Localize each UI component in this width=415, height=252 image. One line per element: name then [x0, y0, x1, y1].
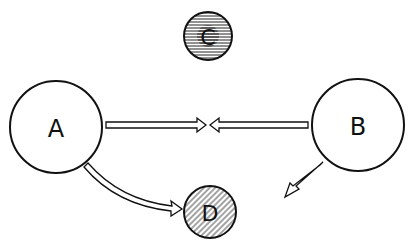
node-d: D: [184, 186, 236, 238]
arrow-b-to-d: [285, 162, 323, 197]
node-a: A: [10, 81, 102, 173]
node-b: B: [312, 79, 404, 171]
node-a-label: A: [48, 115, 65, 143]
node-d-label: D: [202, 201, 219, 226]
diagram-canvas: C A B D: [0, 0, 415, 252]
node-b-label: B: [350, 113, 366, 141]
arrow-b-to-mid: [210, 118, 308, 132]
node-c-label: C: [200, 25, 215, 50]
arrow-a-to-d: [84, 163, 182, 216]
node-c: C: [184, 12, 232, 60]
arrow-a-to-mid: [106, 118, 206, 132]
